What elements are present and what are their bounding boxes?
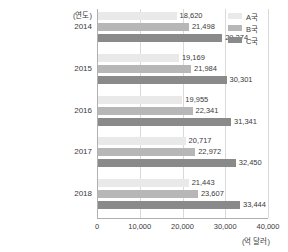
horizontal-bar-chart: (연도) 20142015201620172018 010,00020,0003… <box>0 0 288 252</box>
bar-value-label: 20,717 <box>186 137 212 145</box>
x-axis-tick-label: 10,000 <box>128 222 151 231</box>
legend-swatch-icon-c <box>228 37 242 43</box>
bar-2018-A국 <box>97 179 189 187</box>
y-axis-tick-label-2018: 2018 <box>74 189 92 198</box>
bar-2016-B국 <box>97 107 193 115</box>
y-axis-tick-label-2015: 2015 <box>74 64 92 73</box>
x-axis-line <box>97 218 268 219</box>
bar-value-label: 33,444 <box>240 201 266 209</box>
bar-2018-C국 <box>97 201 240 209</box>
bar-value-label: 19,169 <box>179 54 205 62</box>
x-axis-unit-label: (억 달러) <box>242 235 270 246</box>
bar-2017-B국 <box>97 148 195 156</box>
y-axis-line <box>97 9 98 218</box>
bar-2015-A국 <box>97 54 179 62</box>
legend-item-b[interactable]: B국 <box>228 23 258 33</box>
y-axis-title: (연도) <box>73 9 92 20</box>
bar-value-label: 22,972 <box>195 148 221 156</box>
bar-value-label: 32,450 <box>236 159 262 167</box>
legend-swatch-icon-b <box>228 25 242 31</box>
bar-value-label: 21,443 <box>189 179 215 187</box>
bar-2016-C국 <box>97 118 231 126</box>
bar-2014-B국 <box>97 23 189 31</box>
legend-swatch-icon-a <box>228 13 242 19</box>
bar-value-label: 22,341 <box>193 107 219 115</box>
legend-item-a[interactable]: A국 <box>228 11 258 21</box>
bar-2018-B국 <box>97 190 198 198</box>
bar-2014-C국 <box>97 34 222 42</box>
chart-legend: A국 B국 C국 <box>228 11 258 47</box>
bar-2014-A국 <box>97 12 177 20</box>
bar-2017-C국 <box>97 159 236 167</box>
legend-label-a: A국 <box>246 11 258 22</box>
x-axis-tick-label: 20,000 <box>171 222 194 231</box>
x-axis-tick-label: 0 <box>95 222 99 231</box>
bar-value-label: 21,498 <box>189 23 215 31</box>
bar-value-label: 30,301 <box>227 76 253 84</box>
gridline <box>268 9 269 218</box>
bar-value-label: 21,984 <box>191 65 217 73</box>
bar-value-label: 31,341 <box>231 118 257 126</box>
x-axis-tick-label: 40,000 <box>257 222 280 231</box>
legend-item-c[interactable]: C국 <box>228 35 258 45</box>
x-axis-tick-label: 30,000 <box>214 222 237 231</box>
legend-label-c: C국 <box>246 35 258 46</box>
bar-2015-B국 <box>97 65 191 73</box>
bar-2016-A국 <box>97 96 182 104</box>
legend-label-b: B국 <box>246 23 258 34</box>
bar-value-label: 23,607 <box>198 190 224 198</box>
bar-2017-A국 <box>97 137 186 145</box>
bar-value-label: 19,955 <box>182 96 208 104</box>
y-axis-tick-label-2014: 2014 <box>74 22 92 31</box>
y-axis-tick-label-2017: 2017 <box>74 147 92 156</box>
bar-2015-C국 <box>97 76 227 84</box>
y-axis-tick-label-2016: 2016 <box>74 106 92 115</box>
bar-value-label: 18,620 <box>177 12 203 20</box>
